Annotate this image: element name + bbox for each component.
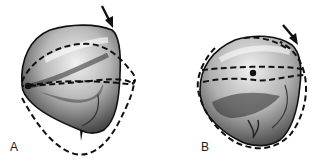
cusp-tip-a: [80, 130, 83, 141]
arrow-a: [102, 6, 113, 28]
contact-point-dot-a: [25, 83, 31, 89]
panel-b: [198, 25, 306, 148]
contact-point-dot-b: [250, 70, 256, 76]
panel-a: [22, 6, 135, 155]
panel-label-a: A: [10, 140, 18, 154]
panel-label-b: B: [201, 140, 209, 154]
figure-canvas: [0, 0, 319, 167]
